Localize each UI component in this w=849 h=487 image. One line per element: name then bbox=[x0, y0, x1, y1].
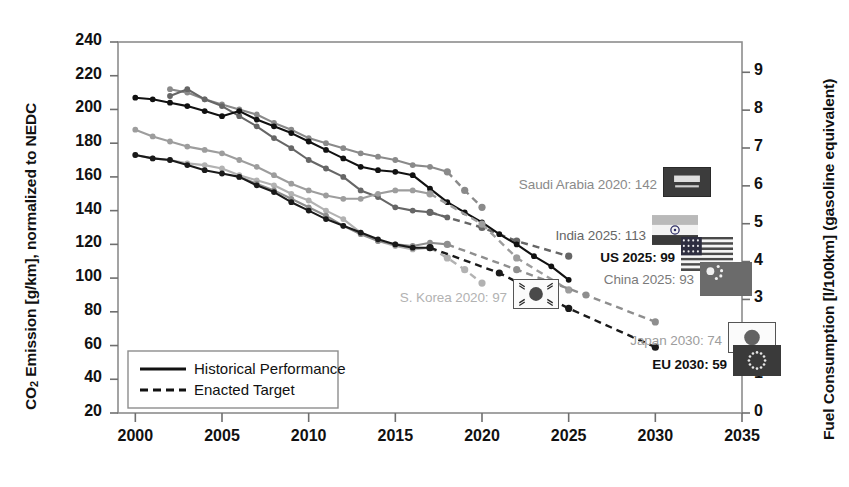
data-point bbox=[340, 223, 346, 229]
y-tick-label-right-5: 5 bbox=[754, 213, 794, 231]
data-point bbox=[323, 216, 329, 222]
x-tick-label-2025: 2025 bbox=[534, 427, 604, 445]
data-point bbox=[236, 108, 242, 114]
y-tick-label-left-240: 240 bbox=[56, 31, 102, 49]
data-point bbox=[132, 127, 138, 133]
data-point bbox=[531, 253, 537, 259]
data-point bbox=[132, 95, 138, 101]
data-point bbox=[219, 171, 225, 177]
data-point bbox=[392, 157, 398, 163]
series-india bbox=[167, 86, 572, 260]
target-point bbox=[444, 254, 451, 261]
series-us bbox=[132, 95, 571, 283]
data-point bbox=[392, 204, 398, 210]
data-point bbox=[410, 245, 416, 251]
target-point bbox=[426, 244, 433, 251]
data-point bbox=[202, 108, 208, 114]
data-point bbox=[340, 196, 346, 202]
y-tick-label-left-140: 140 bbox=[56, 200, 102, 218]
target-point bbox=[565, 305, 572, 312]
data-point bbox=[219, 150, 225, 156]
data-point bbox=[167, 139, 173, 145]
data-point bbox=[236, 113, 242, 119]
data-point bbox=[410, 162, 416, 168]
target-point bbox=[426, 190, 433, 197]
data-point bbox=[288, 181, 294, 187]
target-point bbox=[478, 204, 485, 211]
y-tick-label-left-220: 220 bbox=[56, 65, 102, 83]
data-point bbox=[184, 144, 190, 150]
data-point bbox=[254, 164, 260, 170]
y-tick-label-left-180: 180 bbox=[56, 132, 102, 150]
data-point bbox=[271, 182, 277, 188]
data-point bbox=[306, 198, 312, 204]
annotation-china: China 2025: 93 bbox=[604, 272, 694, 287]
data-point bbox=[202, 96, 208, 102]
annotation-south-korea: S. Korea 2020: 97 bbox=[400, 290, 507, 305]
y-tick-label-right-0: 0 bbox=[754, 402, 794, 420]
data-point bbox=[358, 230, 364, 236]
data-point bbox=[306, 139, 312, 145]
data-point bbox=[184, 86, 190, 92]
data-point bbox=[375, 236, 381, 242]
data-point bbox=[375, 154, 381, 160]
target-point bbox=[652, 318, 659, 325]
data-point bbox=[340, 174, 346, 180]
data-point bbox=[202, 162, 208, 168]
data-point bbox=[219, 113, 225, 119]
y-tick-label-right-4: 4 bbox=[754, 251, 794, 269]
y-tick-label-left-60: 60 bbox=[56, 335, 102, 353]
series-s-korea bbox=[132, 152, 485, 287]
y-tick-label-right-6: 6 bbox=[754, 175, 794, 193]
data-point bbox=[323, 193, 329, 199]
data-point bbox=[236, 174, 242, 180]
target-point bbox=[496, 269, 503, 276]
data-point bbox=[340, 145, 346, 151]
data-point bbox=[288, 145, 294, 151]
data-point bbox=[167, 100, 173, 106]
target-point bbox=[444, 168, 451, 175]
y-tick-label-left-160: 160 bbox=[56, 166, 102, 184]
y-tick-label-right-8: 8 bbox=[754, 99, 794, 117]
data-point bbox=[288, 199, 294, 205]
data-point bbox=[427, 164, 433, 170]
y-tick-label-left-120: 120 bbox=[56, 233, 102, 251]
data-point bbox=[375, 191, 381, 197]
data-point bbox=[271, 135, 277, 141]
y-tick-label-left-80: 80 bbox=[56, 301, 102, 319]
data-point bbox=[566, 277, 572, 283]
x-tick-label-2015: 2015 bbox=[360, 427, 430, 445]
target-point bbox=[426, 209, 433, 216]
data-point bbox=[410, 188, 416, 194]
y-tick-label-right-9: 9 bbox=[754, 61, 794, 79]
target-point bbox=[513, 254, 520, 261]
data-point bbox=[150, 156, 156, 162]
eu-flag bbox=[733, 345, 781, 376]
data-point bbox=[150, 134, 156, 140]
data-point bbox=[254, 182, 260, 188]
x-tick-label-2000: 2000 bbox=[100, 427, 170, 445]
y-tick-label-right-3: 3 bbox=[754, 288, 794, 306]
target-point bbox=[444, 241, 451, 248]
data-point bbox=[548, 263, 554, 269]
data-point bbox=[236, 157, 242, 163]
south-korea-flag bbox=[513, 279, 559, 309]
x-tick-label-2035: 2035 bbox=[707, 427, 777, 445]
annotation-eu: EU 2030: 59 bbox=[652, 357, 727, 372]
target-point bbox=[565, 253, 572, 260]
data-point bbox=[271, 123, 277, 129]
x-tick-label-2005: 2005 bbox=[187, 427, 257, 445]
data-point bbox=[167, 93, 173, 99]
data-point bbox=[410, 208, 416, 214]
data-point bbox=[167, 86, 173, 92]
data-point bbox=[219, 103, 225, 109]
data-point bbox=[323, 208, 329, 214]
y-tick-label-left-100: 100 bbox=[56, 267, 102, 285]
data-point bbox=[340, 156, 346, 162]
x-tick-label-2020: 2020 bbox=[447, 427, 517, 445]
data-point bbox=[254, 112, 260, 118]
legend-label-0: Historical Performance bbox=[194, 360, 346, 377]
data-point bbox=[306, 188, 312, 194]
data-point bbox=[496, 231, 502, 237]
historical-line bbox=[135, 98, 568, 280]
